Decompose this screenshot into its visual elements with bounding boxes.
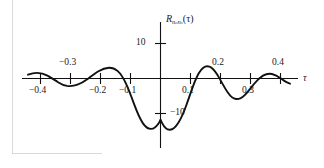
x-tick-label-0-2: 0.2 — [212, 58, 224, 68]
x-tick-label-minus-0-1: −0.1 — [119, 86, 136, 96]
plot-canvas — [0, 0, 324, 168]
x-tick-label-minus-0-3: −0.3 — [59, 58, 76, 68]
x-tick-label-0-1: 0.1 — [182, 86, 194, 96]
y-axis-label: Rncns(τ) — [166, 14, 193, 25]
y-tick-label-10: 10 — [136, 38, 146, 48]
correlation-function-figure: Rncns(τ) τ 10 −10 −0.3 0.2 0.4 −0.4 −0.2… — [0, 0, 324, 168]
x-tick-label-minus-0-4: −0.4 — [29, 86, 46, 96]
y-tick-label-minus-10: −10 — [170, 108, 185, 118]
x-tick-label-0-4: 0.4 — [272, 58, 284, 68]
x-tick-label-0-3: 0.3 — [242, 86, 254, 96]
y-axis-label-argument: (τ) — [183, 13, 194, 24]
x-axis-label-tau: τ — [303, 73, 307, 83]
x-tick-label-minus-0-2: −0.2 — [89, 86, 106, 96]
